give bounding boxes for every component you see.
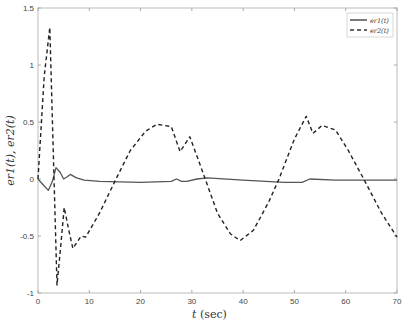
y-axis-label: er1(t), er2(t): [4, 115, 17, 186]
x-tick-label: 30: [187, 297, 196, 306]
series-er2-line: [38, 27, 397, 285]
y-tick-label: 0.5: [23, 118, 35, 127]
x-tick-label: 60: [341, 297, 350, 306]
x-tick-label: 70: [393, 297, 402, 306]
x-tick-label: 40: [239, 297, 248, 306]
y-tick-label: -0.5: [20, 232, 34, 241]
plot-area-frame: [38, 8, 397, 293]
x-tick-label: 20: [136, 297, 145, 306]
x-tick-label: 0: [36, 297, 41, 306]
y-tick-label: 0: [30, 175, 35, 184]
series-er1-line: [38, 168, 397, 191]
x-tick-label: 50: [290, 297, 299, 306]
legend-label: er2(t): [370, 27, 389, 35]
y-tick-label: 1.5: [23, 4, 35, 13]
x-axis-label: t (sec): [192, 308, 227, 321]
x-tick-label: 10: [85, 297, 94, 306]
y-tick-label: 1: [30, 61, 35, 70]
chart-figure: 010203040506070-1-0.500.511.5t (sec)er1(…: [0, 0, 407, 327]
y-tick-label: -1: [27, 289, 35, 298]
line-chart: 010203040506070-1-0.500.511.5t (sec)er1(…: [0, 0, 407, 327]
legend-label: er1(t): [370, 17, 389, 25]
